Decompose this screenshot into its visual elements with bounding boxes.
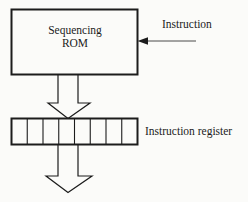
- register-output-arrow: [46, 145, 92, 193]
- rom-to-register-arrow: [48, 75, 90, 119]
- sequencing-rom-label: Sequencing ROM: [12, 24, 138, 50]
- diagram-canvas: Sequencing ROM Instruction Instruction r…: [0, 0, 248, 202]
- instruction-register-label: Instruction register: [145, 125, 232, 138]
- instruction-input-label: Instruction: [162, 18, 212, 31]
- rom-label-line1: Sequencing: [12, 24, 138, 37]
- instruction-input-arrow: [138, 37, 197, 44]
- rom-label-line2: ROM: [12, 37, 138, 50]
